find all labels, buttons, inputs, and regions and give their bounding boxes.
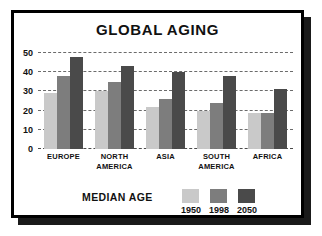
bar bbox=[274, 89, 287, 149]
plot-area: 01020304050 bbox=[38, 53, 293, 149]
y-axis-tick-label: 50 bbox=[23, 48, 33, 58]
y-axis-tick-label: 20 bbox=[23, 106, 33, 116]
legend-swatch bbox=[182, 189, 199, 203]
legend-key-label: 1950 bbox=[177, 205, 205, 215]
bar bbox=[210, 103, 223, 149]
category-label: EUROPE bbox=[38, 152, 89, 162]
chart-canvas: GLOBAL AGING 01020304050 EUROPENORTH AME… bbox=[14, 13, 301, 215]
y-axis-tick-label: 30 bbox=[23, 86, 33, 96]
bar bbox=[95, 91, 108, 149]
bar bbox=[146, 107, 159, 149]
category-axis-labels: EUROPENORTH AMERICAASIASOUTH AMERICAAFRI… bbox=[38, 152, 293, 178]
bar bbox=[108, 82, 121, 149]
bar bbox=[57, 76, 70, 149]
chart-frame: GLOBAL AGING 01020304050 EUROPENORTH AME… bbox=[11, 10, 304, 218]
bar-group bbox=[242, 53, 293, 149]
bar bbox=[70, 57, 83, 149]
legend-key-label: 2050 bbox=[233, 205, 261, 215]
bar bbox=[223, 76, 236, 149]
legend-swatch bbox=[210, 189, 227, 203]
category-label: SOUTH AMERICA bbox=[191, 152, 242, 171]
category-label: ASIA bbox=[140, 152, 191, 162]
category-label: NORTH AMERICA bbox=[89, 152, 140, 171]
bar bbox=[248, 113, 261, 149]
bar bbox=[197, 111, 210, 149]
bar-group bbox=[89, 53, 140, 149]
bar-group bbox=[140, 53, 191, 149]
legend-swatch bbox=[238, 189, 255, 203]
bars-layer bbox=[38, 53, 293, 149]
y-axis-tick-label: 10 bbox=[23, 125, 33, 135]
legend-title: MEDIAN AGE bbox=[82, 191, 153, 203]
y-axis-tick-label: 0 bbox=[28, 144, 33, 154]
bar bbox=[44, 93, 57, 149]
bar-group bbox=[38, 53, 89, 149]
category-label: AFRICA bbox=[242, 152, 293, 162]
bar-group bbox=[191, 53, 242, 149]
chart-legend: MEDIAN AGE 195019982050 bbox=[14, 185, 301, 219]
bar bbox=[261, 113, 274, 149]
y-axis-tick-label: 40 bbox=[23, 67, 33, 77]
bar bbox=[159, 99, 172, 149]
bar bbox=[121, 66, 134, 149]
chart-title: GLOBAL AGING bbox=[14, 21, 301, 38]
bar bbox=[172, 72, 185, 149]
legend-key-label: 1998 bbox=[205, 205, 233, 215]
